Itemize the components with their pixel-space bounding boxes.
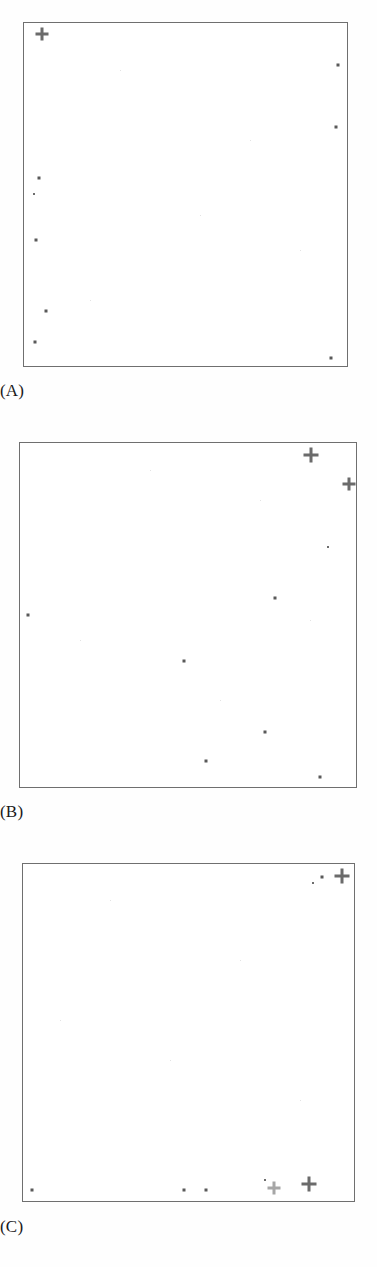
scatter-cross-marker [304,448,319,463]
scatter-point-marker [264,731,267,734]
plot-frame-c [22,863,355,1202]
scatter-point-marker [312,882,314,884]
scatter-point-marker [335,126,338,129]
paper-speck [110,900,111,901]
scatter-point-marker [27,614,30,617]
plot-area-c [23,864,354,1201]
paper-speck [310,620,311,621]
scatter-point-marker [330,357,333,360]
paper-speck [300,1100,301,1101]
scatter-point-marker [35,239,38,242]
scatter-point-marker [38,177,41,180]
scatter-cross-marker [268,1182,281,1195]
scatter-point-marker [327,546,329,548]
paper-speck [250,140,251,141]
paper-speck [260,500,261,501]
paper-speck [170,1060,171,1061]
scatter-point-marker [205,1189,208,1192]
scatter-point-marker [337,64,340,67]
scatter-cross-marker [335,869,350,884]
plot-frame-b [19,442,357,788]
paper-speck [60,1020,61,1021]
paper-speck [120,70,121,71]
scatter-point-marker [183,1189,186,1192]
paper-speck [220,700,221,701]
figure-page: (A) (B) (C) [0,0,377,1267]
plot-frame-a [23,22,348,367]
paper-speck [80,640,81,641]
scatter-point-marker [33,193,35,195]
scatter-cross-marker [36,28,49,41]
paper-speck [200,215,201,216]
scatter-point-marker [183,660,186,663]
scatter-point-marker [274,597,277,600]
scatter-point-marker [34,341,37,344]
scatter-point-marker [45,310,48,313]
plot-area-a [24,23,347,366]
scatter-point-marker [264,1179,266,1181]
plot-area-b [20,443,356,787]
paper-speck [300,250,301,251]
paper-speck [90,300,91,301]
scatter-point-marker [205,760,208,763]
scatter-point-marker [31,1189,34,1192]
scatter-point-marker [321,876,324,879]
scatter-cross-marker [302,1177,317,1192]
scatter-cross-marker [343,478,356,491]
paper-speck [150,470,151,471]
scatter-point-marker [319,776,322,779]
paper-speck [240,960,241,961]
